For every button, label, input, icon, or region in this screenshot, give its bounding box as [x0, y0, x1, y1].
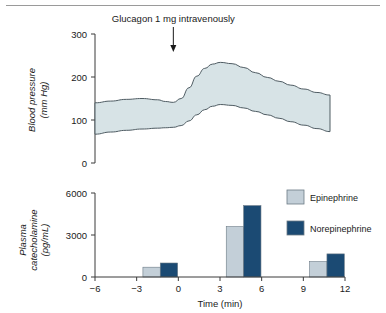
top-divider-rule: [6, 5, 380, 6]
bp-y-tick-label: 300: [71, 29, 87, 40]
legend-label-epinephrine: Epinephrine: [310, 193, 358, 203]
figure-svg: 0100200300Blood pressure(mm Hg)Glucagon …: [0, 0, 386, 313]
bp-y-axis-title-line2: (mm Hg): [38, 82, 49, 119]
bar-epinephrine: [310, 262, 327, 277]
bp-y-tick-label: 200: [71, 72, 87, 83]
cc-y-axis-title-line2: catecholamine: [28, 209, 39, 270]
cc-y-tick-label: 3000: [66, 230, 87, 241]
cc-y-tick-label: 0: [82, 272, 87, 283]
bp-y-axis-title-line1: Blood pressure: [26, 68, 37, 132]
cc-x-tick-label: −6: [90, 283, 101, 294]
glucagon-annotation-label: Glucagon 1 mg intravenously: [112, 13, 235, 24]
bar-norepinephrine: [327, 254, 344, 277]
cc-y-tick-label: 6000: [66, 188, 87, 199]
blood-pressure-band: [95, 62, 330, 134]
cc-x-tick-label: 9: [301, 283, 306, 294]
glucagon-arrow-head-icon: [170, 45, 176, 52]
bar-norepinephrine: [244, 206, 261, 277]
cc-x-tick-label: −3: [131, 283, 142, 294]
bar-epinephrine: [226, 227, 243, 277]
bar-epinephrine: [143, 267, 160, 277]
cc-x-tick-label: 6: [259, 283, 264, 294]
cc-x-tick-label: 12: [340, 283, 351, 294]
cc-x-tick-label: 0: [176, 283, 181, 294]
cc-x-tick-label: 3: [217, 283, 222, 294]
cc-y-axis-title-line3: (pg/mL): [39, 224, 50, 257]
bar-norepinephrine: [160, 263, 177, 277]
bp-y-tick-label: 100: [71, 115, 87, 126]
figure-container: 0100200300Blood pressure(mm Hg)Glucagon …: [0, 0, 386, 313]
legend-label-norepinephrine: Norepinephrine: [310, 224, 372, 234]
bp-y-tick-label: 0: [82, 158, 87, 169]
cc-x-axis-title: Time (min): [197, 298, 242, 309]
legend-swatch-norepinephrine: [287, 221, 304, 235]
legend-swatch-epinephrine: [287, 190, 304, 204]
cc-y-axis-title-line1: Plasma: [17, 224, 28, 256]
